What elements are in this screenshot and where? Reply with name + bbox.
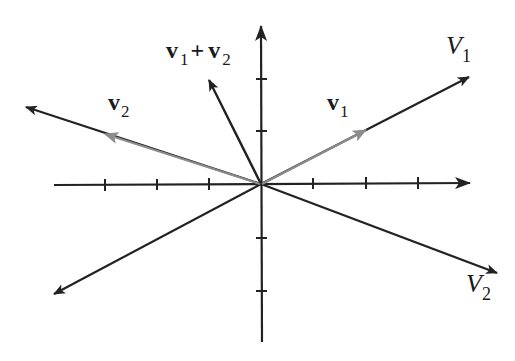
label-v2: v2	[108, 89, 130, 121]
label-v1: v1	[327, 89, 349, 121]
label-V1: V1	[446, 31, 471, 66]
vector-v1	[262, 130, 366, 184]
line-V1-negative	[54, 184, 261, 294]
vector-diagram: V1 V2 v1 v2 v1+v2	[0, 0, 515, 361]
label-v1-plus-v2: v1+v2	[166, 37, 231, 69]
label-V2: V2	[466, 269, 491, 304]
vector-v2	[105, 134, 260, 184]
line-V2	[261, 184, 497, 273]
